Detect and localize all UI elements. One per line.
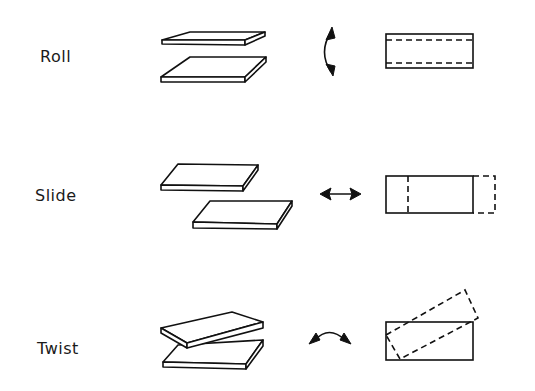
slide-plan-view <box>386 176 495 213</box>
roll-top-plate <box>162 32 265 45</box>
twist-plates-illustration <box>161 312 263 369</box>
slide-top-plate <box>161 164 258 191</box>
roll-plates-illustration <box>161 32 266 82</box>
motion-diagram <box>0 0 535 391</box>
twist-plan-view <box>386 290 478 360</box>
curved-horizontal-double-arrow-icon <box>309 333 351 345</box>
roll-plan-view <box>386 34 473 68</box>
slide-plates-illustration <box>161 164 292 229</box>
slide-bottom-plate <box>193 201 292 229</box>
horizontal-double-arrow-icon <box>320 188 361 200</box>
twist-bottom-plate <box>163 340 263 369</box>
curved-vertical-double-arrow-icon <box>325 27 336 76</box>
roll-bottom-plate <box>161 57 266 82</box>
